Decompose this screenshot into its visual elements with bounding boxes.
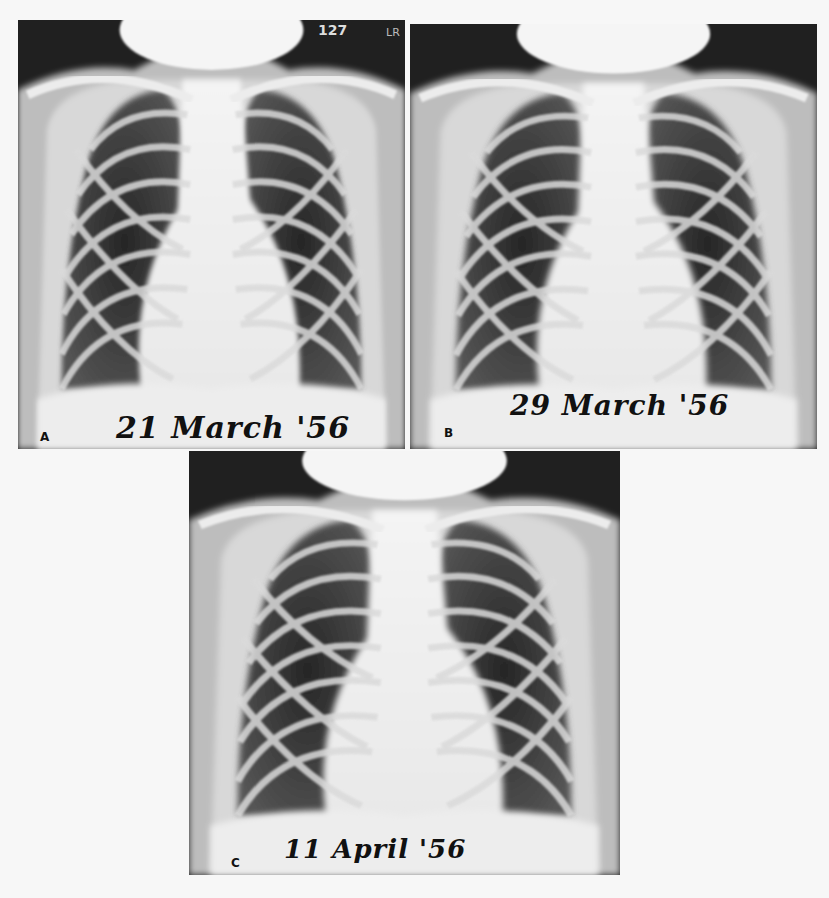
panel-letter-c: C xyxy=(231,856,240,870)
xray-panel-a: 127 LR 21 March '56 A xyxy=(18,20,405,449)
chest-xray-image-a xyxy=(18,20,405,449)
panel-letter-b: B xyxy=(444,426,453,440)
chest-xray-image-c xyxy=(189,451,620,875)
film-side-marker: LR xyxy=(386,26,400,39)
xray-panel-b: 29 March '56 B xyxy=(410,24,817,449)
film-number: 127 xyxy=(318,22,347,38)
date-caption-c: 11 April '56 xyxy=(284,834,466,864)
panel-letter-a: A xyxy=(40,430,49,444)
date-caption-b: 29 March '56 xyxy=(510,389,729,422)
date-caption-a: 21 March '56 xyxy=(116,410,350,445)
chest-xray-image-b xyxy=(410,24,817,449)
xray-panel-c: 11 April '56 C xyxy=(189,451,620,875)
